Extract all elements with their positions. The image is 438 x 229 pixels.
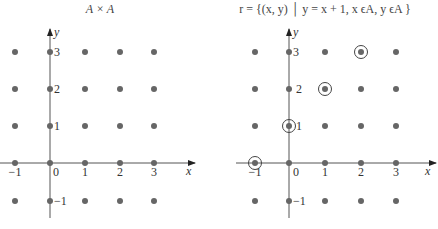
data-point — [286, 86, 292, 92]
panel-left: A × A x y −1 0 1 2 3 3 2 1 −1 — [0, 2, 195, 218]
data-point — [82, 123, 88, 129]
data-point — [358, 198, 364, 204]
data-point — [358, 86, 364, 92]
x-tick-label: 3 — [393, 165, 399, 179]
y-tick-label: −1 — [54, 194, 67, 208]
panel-right: r = {(x, y) │ y = x + 1, x ϵA, y ϵA } x … — [236, 2, 436, 218]
data-point — [117, 198, 123, 204]
data-point — [117, 160, 123, 166]
y-tick-label: 2 — [296, 82, 302, 96]
data-point — [358, 49, 364, 55]
y-axis-label: y — [53, 25, 60, 39]
data-point — [252, 198, 258, 204]
y-axis-label: y — [292, 25, 299, 39]
data-point — [252, 49, 258, 55]
y-tick-label: 1 — [54, 119, 60, 133]
data-point — [151, 198, 157, 204]
data-point — [393, 86, 399, 92]
x-tick-label: 2 — [117, 165, 123, 179]
data-point — [252, 123, 258, 129]
data-point — [358, 160, 364, 166]
data-point — [393, 198, 399, 204]
data-point — [286, 123, 292, 129]
panel-title: A × A — [85, 2, 115, 16]
data-point — [47, 198, 53, 204]
data-point — [151, 123, 157, 129]
y-tick-label: 1 — [296, 119, 302, 133]
data-point — [12, 123, 18, 129]
data-point — [47, 49, 53, 55]
points-layer — [12, 49, 157, 204]
y-tick-label: 3 — [293, 45, 299, 59]
data-point — [358, 123, 364, 129]
data-point — [82, 49, 88, 55]
x-axis-label: x — [424, 164, 431, 178]
data-point — [47, 160, 53, 166]
data-point — [117, 49, 123, 55]
data-point — [47, 123, 53, 129]
points-layer — [249, 46, 400, 205]
data-point — [82, 86, 88, 92]
data-point — [12, 49, 18, 55]
data-point — [117, 86, 123, 92]
panel-title: r = {(x, y) │ y = x + 1, x ϵA, y ϵA } — [239, 2, 411, 17]
data-point — [12, 198, 18, 204]
data-point — [151, 160, 157, 166]
data-point — [286, 198, 292, 204]
data-point — [47, 86, 53, 92]
x-tick-label: 3 — [151, 165, 157, 179]
data-point — [286, 160, 292, 166]
x-tick-label: 1 — [322, 165, 328, 179]
data-point — [12, 160, 18, 166]
data-point — [322, 160, 328, 166]
data-point — [151, 86, 157, 92]
y-tick-label: 3 — [54, 45, 60, 59]
relation-figure: A × A x y −1 0 1 2 3 3 2 1 −1 r = {(x, y… — [0, 0, 438, 229]
y-tick-label: −1 — [293, 194, 306, 208]
x-axis-label: x — [185, 164, 192, 178]
data-point — [252, 86, 258, 92]
data-point — [322, 86, 328, 92]
data-point — [286, 49, 292, 55]
x-tick-label: 2 — [358, 165, 364, 179]
data-point — [82, 160, 88, 166]
data-point — [117, 123, 123, 129]
x-tick-label: 1 — [82, 165, 88, 179]
x-tick-label: 0 — [53, 165, 59, 179]
data-point — [393, 49, 399, 55]
data-point — [12, 86, 18, 92]
data-point — [393, 123, 399, 129]
data-point — [393, 160, 399, 166]
x-tick-label: −1 — [9, 165, 22, 179]
data-point — [322, 198, 328, 204]
data-point — [151, 49, 157, 55]
data-point — [252, 160, 258, 166]
x-tick-label: 0 — [293, 165, 299, 179]
data-point — [322, 49, 328, 55]
y-tick-label: 2 — [54, 82, 60, 96]
data-point — [322, 123, 328, 129]
data-point — [82, 198, 88, 204]
